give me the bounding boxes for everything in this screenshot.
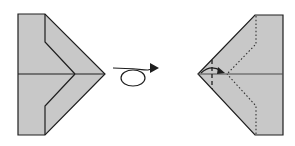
diagram-canvas: Paper airplane folding step: turn the mo… <box>0 0 295 146</box>
paper-body <box>198 15 283 135</box>
turn-over-loop-arrow-icon <box>113 63 159 86</box>
model-before <box>18 14 105 135</box>
model-after <box>198 15 283 135</box>
